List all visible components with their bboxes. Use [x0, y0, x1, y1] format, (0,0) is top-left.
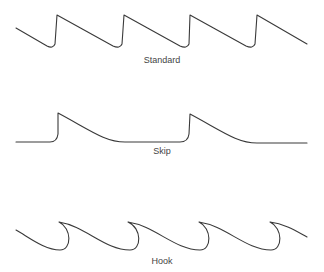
standard-tooth-profile — [16, 15, 307, 47]
tooth-profiles — [0, 0, 324, 272]
standard-label: Standard — [144, 55, 181, 65]
hook-tooth-profile — [16, 222, 307, 250]
tooth-form-diagram: Standard Skip Hook — [0, 0, 324, 272]
skip-tooth-profile — [16, 113, 307, 143]
hook-label: Hook — [151, 256, 172, 266]
skip-label: Skip — [153, 146, 171, 156]
